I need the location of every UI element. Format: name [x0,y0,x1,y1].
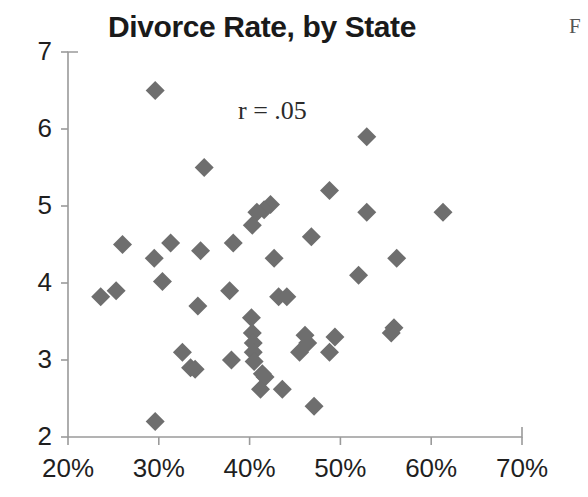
data-point-marker [220,281,239,300]
data-point-marker [320,343,339,362]
data-point-marker [349,266,368,285]
x-axis-tick-label: 50% [300,455,380,481]
data-point-marker [191,241,210,260]
data-point-marker [222,351,241,370]
x-axis-tick-label: 20% [28,455,108,481]
data-point-marker [145,249,164,268]
data-point-marker [357,203,376,222]
data-point-marker [173,343,192,362]
data-point-marker [305,397,324,416]
data-point-marker [242,308,261,327]
data-point-marker [153,272,172,291]
data-point-marker [325,327,344,346]
data-point-marker [357,127,376,146]
scatter-plot-area [0,0,588,497]
y-axis-tick-label: 4 [12,269,52,295]
data-point-marker [146,81,165,100]
data-point-marker [265,249,284,268]
data-point-marker [113,235,132,254]
data-point-marker [273,380,292,399]
data-point-marker [320,181,339,200]
data-point-marker [387,249,406,268]
data-point-marker [146,412,165,431]
x-axis-tick-label: 30% [119,455,199,481]
x-axis-tick-label: 60% [391,455,471,481]
y-axis-tick-label: 7 [12,38,52,64]
x-axis-tick-label: 70% [482,455,562,481]
y-axis-tick-label: 6 [12,115,52,141]
correlation-annotation: r = .05 [238,96,307,126]
data-point-marker [161,233,180,252]
y-axis-tick-label: 3 [12,346,52,372]
data-point-marker [188,297,207,316]
data-point-marker [224,233,243,252]
y-axis-tick-label: 5 [12,192,52,218]
y-axis-tick-label: 2 [12,423,52,449]
divorce-rate-scatter-chart: Divorce Rate, by State F r = .05 765432 … [0,0,588,497]
x-axis-tick-label: 40% [210,455,290,481]
data-point-marker [302,227,321,246]
data-point-marker [434,203,453,222]
data-point-marker [195,158,214,177]
